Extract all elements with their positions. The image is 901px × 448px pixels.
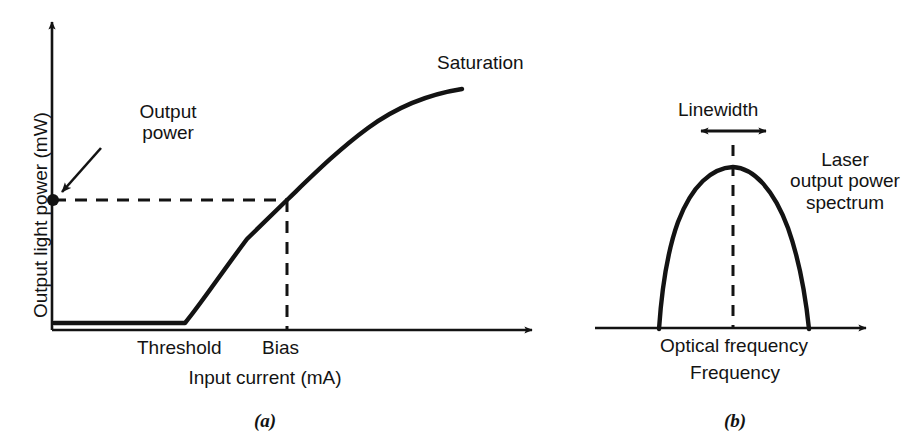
panel-b-frequency-label: Frequency <box>645 362 825 383</box>
panel-a-output-power-leader-arrow <box>62 148 101 192</box>
panel-a-x-axis-label: Input current (mA) <box>165 367 365 388</box>
panel-a-saturation-annotation: Saturation <box>437 52 524 73</box>
panel-b-optical-frequency-label: Optical frequency <box>623 335 845 356</box>
panel-a-output-power-annotation: Output power <box>112 101 224 144</box>
panel-b-linewidth-label: Linewidth <box>678 99 758 120</box>
panel-a-y-axis-label: Output light power (mW) <box>30 112 51 318</box>
panel-a-bias-label: Bias <box>262 337 299 358</box>
panel-a-threshold-label: Threshold <box>137 337 222 358</box>
panel-b-caption: (b) <box>685 410 785 432</box>
figure-root: Output light power (mW) Output power Sat… <box>0 0 901 448</box>
panel-a-caption: (a) <box>215 410 315 432</box>
panel-b-spectrum-annotation: Laser output power spectrum <box>789 149 901 213</box>
